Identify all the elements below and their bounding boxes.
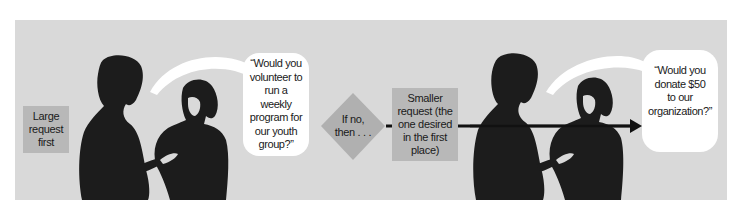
large-request-box: Large request first bbox=[23, 106, 69, 153]
speech-line: “Would you bbox=[642, 64, 718, 78]
large-request-line: Large bbox=[29, 110, 64, 123]
speech-line: to our bbox=[642, 91, 718, 105]
smaller-request-line: place) bbox=[397, 144, 452, 157]
speech-line: organization?” bbox=[642, 105, 718, 119]
speech-line: group?” bbox=[243, 138, 309, 152]
large-request-line: first bbox=[29, 136, 64, 149]
speech-line: weekly bbox=[243, 98, 309, 112]
speech-line: program for bbox=[243, 111, 309, 125]
speech-line: volunteer to bbox=[243, 71, 309, 85]
diagram-artwork bbox=[0, 0, 742, 212]
speech-line: “Would you bbox=[243, 57, 309, 71]
large-request-line: request bbox=[29, 123, 64, 136]
smaller-request-line: one desired bbox=[397, 118, 452, 131]
smaller-request-line: Smaller bbox=[397, 92, 452, 105]
speech-line: our youth bbox=[243, 125, 309, 139]
speech-bubble-2-text: “Would you donate $50 to our organizatio… bbox=[642, 64, 718, 118]
condition-line: then . . . bbox=[325, 126, 381, 139]
smaller-request-line: in the first bbox=[397, 131, 452, 144]
condition-line: If no, bbox=[325, 113, 381, 126]
speech-bubble-1-text: “Would you volunteer to run a weekly pro… bbox=[243, 57, 309, 152]
condition-text: If no, then . . . bbox=[325, 113, 381, 139]
speech-line: donate $50 bbox=[642, 78, 718, 92]
smaller-request-box: Smaller request (the one desired in the … bbox=[392, 88, 458, 161]
smaller-request-line: request (the bbox=[397, 105, 452, 118]
speech-line: run a bbox=[243, 84, 309, 98]
